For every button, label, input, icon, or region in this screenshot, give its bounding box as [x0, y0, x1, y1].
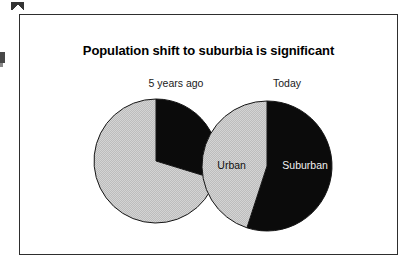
- slide-frame: Population shift to suburbia is signific…: [19, 14, 398, 255]
- scan-artifact-left-edge-icon: [0, 52, 5, 63]
- pie-slice-label-suburban: Suburban: [282, 159, 328, 171]
- pie-charts-figure: SuburbanUrban: [20, 15, 399, 256]
- pie-slice-label-urban: Urban: [217, 159, 246, 171]
- pie-chart-5-years-ago: [94, 99, 218, 223]
- scan-artifact-corner-icon: [11, 2, 24, 10]
- pie-chart-today: SuburbanUrban: [202, 101, 332, 231]
- scan-artifact-left-edge-secondary-icon: [0, 63, 3, 67]
- screenshot-canvas: Population shift to suburbia is signific…: [0, 0, 416, 273]
